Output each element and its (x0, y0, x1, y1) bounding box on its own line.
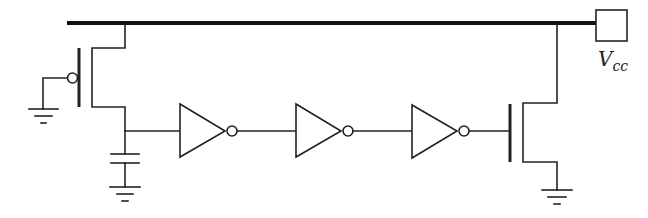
circuit-diagram: Vcc (0, 0, 648, 218)
vcc-label-sub: cc (612, 58, 628, 74)
ground-icon (110, 187, 140, 201)
inverter-bubble (459, 126, 469, 136)
ground-icon (542, 190, 572, 204)
pmos-gate-bubble (68, 73, 78, 83)
inverter-bubble (343, 126, 353, 136)
nmos-transistor (510, 23, 572, 204)
vcc-label: Vcc (598, 47, 628, 74)
inverter-1 (180, 104, 237, 157)
inverter-3 (412, 105, 469, 158)
pmos-transistor (29, 23, 125, 131)
inverter-2 (296, 104, 353, 157)
inverter-bubble (227, 126, 237, 136)
vcc-terminal (596, 10, 627, 41)
capacitor (110, 131, 140, 201)
ground-icon (29, 109, 58, 123)
